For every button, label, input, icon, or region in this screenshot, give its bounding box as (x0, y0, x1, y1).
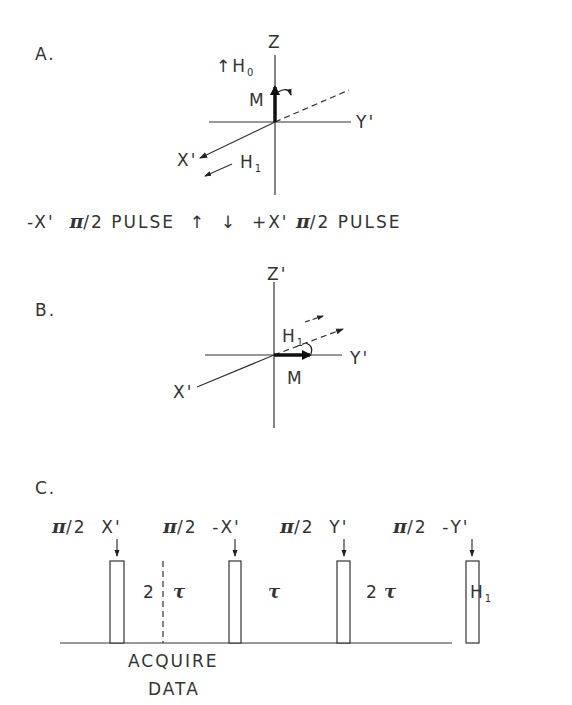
dashed-axis (275, 90, 349, 122)
pulse-caption: -X' π/2 PULSE ↑ ↓ +X' π/2 PULSE (27, 212, 401, 231)
pulse-4-label: π/2 -Y' (393, 517, 469, 536)
rotation-arrow (278, 90, 291, 95)
interval-1-num: 2 (143, 584, 156, 601)
z-axis-label: Z (268, 34, 282, 51)
panel-c-label: C. (35, 480, 56, 497)
m-label: M (249, 92, 266, 109)
pulse-2 (229, 561, 241, 643)
h1-label: H1 (240, 154, 261, 171)
pulse-1 (110, 561, 124, 643)
panel-b-axes (197, 282, 343, 428)
rotation-arrow (306, 343, 312, 354)
x-axis-label: X' (173, 384, 193, 401)
h0-label: ↑H0 (216, 58, 253, 75)
pulse-4 (466, 561, 479, 643)
panel-a-label: A. (35, 46, 56, 63)
m-label: M (287, 370, 304, 387)
interval-3-num: 2 (366, 584, 379, 601)
z-axis-label: Z' (267, 266, 287, 283)
interval-3-tau: τ (384, 583, 398, 601)
pulse-3 (337, 561, 350, 643)
channel-label: H1 (470, 584, 491, 601)
x-axis-arrow (200, 122, 275, 158)
h1-label: H1 (282, 328, 303, 345)
pulse-2-label: π/2 -X' (163, 517, 241, 536)
panel-b-label: B. (35, 302, 56, 319)
h1-arrow (305, 316, 323, 322)
y-axis-label: Y' (356, 114, 375, 131)
pulse-3-label: π/2 Y' (280, 517, 348, 536)
x-axis (197, 355, 274, 387)
interval-1-tau: τ (173, 583, 187, 601)
pulse-1-label: π/2 X' (52, 517, 122, 536)
x-axis-label: X' (177, 152, 197, 169)
panel-a-axes (200, 55, 351, 195)
h1-arrow (205, 164, 232, 176)
acquire-label: ACQUIRE (128, 653, 219, 670)
data-label: DATA (148, 681, 200, 698)
y-axis-label: Y' (350, 350, 369, 367)
interval-2-tau: τ (268, 583, 282, 601)
